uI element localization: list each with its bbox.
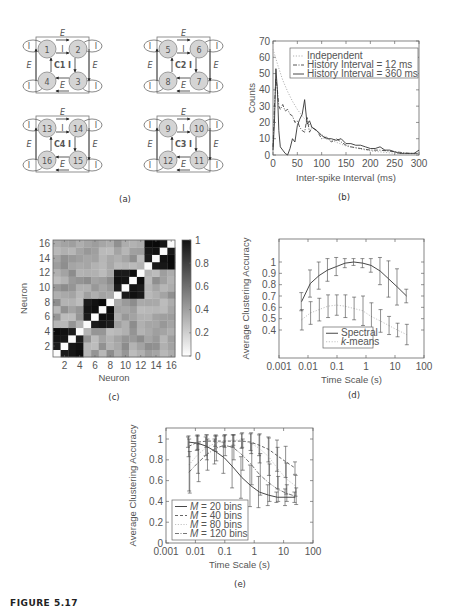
heatmap-cell — [129, 284, 137, 292]
heatmap-cell — [114, 291, 122, 299]
heatmap-cell — [84, 284, 92, 292]
heatmap-cell — [152, 299, 160, 307]
heatmap-cell — [129, 247, 137, 255]
heatmap-cell — [68, 320, 76, 328]
cluster-c3: IIII9101112EEEEIC3 I — [144, 108, 223, 172]
heatmap-cell — [114, 262, 122, 270]
heatmap-cell — [91, 313, 99, 321]
svg-text:1: 1 — [195, 235, 201, 246]
svg-text:2: 2 — [44, 341, 50, 352]
heatmap-cell — [122, 291, 130, 299]
self-loop-label: I — [95, 161, 97, 170]
svg-text:100: 100 — [416, 361, 433, 372]
heatmap-cell — [152, 269, 160, 277]
heatmap-cell — [106, 306, 114, 314]
svg-text:E: E — [92, 61, 98, 70]
svg-text:I: I — [61, 45, 63, 54]
heatmap-cell — [152, 277, 160, 285]
neuron-label: 10 — [194, 125, 204, 134]
heatmap-cell — [99, 247, 107, 255]
heatmap-cell — [68, 299, 76, 307]
heatmap-cell — [91, 269, 99, 277]
heatmap-cell — [106, 255, 114, 263]
heatmap-cell — [114, 313, 122, 321]
heatmap-cell — [160, 255, 168, 263]
neuron-label: 1 — [44, 46, 49, 55]
svg-text:0.1: 0.1 — [330, 361, 344, 372]
heatmap-cell — [152, 262, 160, 270]
heatmap-cell — [152, 306, 160, 314]
heatmap-cell — [68, 335, 76, 343]
heatmap-cell — [53, 262, 61, 270]
heatmap-cell — [145, 255, 153, 263]
heatmap-cell — [152, 247, 160, 255]
heatmap-cell — [84, 313, 92, 321]
svg-text:0.001: 0.001 — [266, 361, 291, 372]
heatmap-cell — [122, 269, 130, 277]
heatmap-cell — [106, 262, 114, 270]
neuron-label: 11 — [194, 157, 204, 166]
heatmap-cell — [167, 291, 175, 299]
heatmap-cell — [84, 247, 92, 255]
heatmap-cell — [122, 306, 130, 314]
heatmap-cell — [99, 240, 107, 248]
heatmap-cell — [137, 247, 145, 255]
svg-text:12: 12 — [39, 267, 51, 278]
svg-text:6: 6 — [92, 360, 98, 371]
heatmap-cell — [53, 335, 61, 343]
svg-text:60: 60 — [259, 52, 271, 63]
svg-text:6: 6 — [44, 311, 50, 322]
neuron-label: 13 — [42, 125, 52, 134]
panel-a-label: (a) — [119, 194, 131, 204]
heatmap-cell — [99, 284, 107, 292]
heatmap-cell — [84, 240, 92, 248]
heatmap-cell — [76, 299, 84, 307]
svg-text:4: 4 — [44, 326, 50, 337]
svg-text:E: E — [26, 61, 32, 70]
heatmap-cell — [145, 269, 153, 277]
heatmap-cell — [129, 269, 137, 277]
heatmap-cell — [129, 262, 137, 270]
heatmap-cell — [160, 328, 168, 336]
svg-text:E: E — [92, 140, 98, 149]
heatmap-cell — [114, 306, 122, 314]
heatmap-cell — [99, 350, 107, 358]
heatmap-cell — [91, 262, 99, 270]
heatmap-cell — [84, 262, 92, 270]
x-axis-label: Time Scale (s) — [209, 559, 270, 570]
heatmap-cell — [99, 328, 107, 336]
heatmap-cell — [106, 284, 114, 292]
heatmap-cell — [160, 306, 168, 314]
heatmap-cell — [106, 299, 114, 307]
heatmap-cell — [68, 342, 76, 350]
heatmap-cell — [152, 291, 160, 299]
heatmap-cell — [84, 328, 92, 336]
heatmap-cell — [91, 255, 99, 263]
heatmap-cell — [68, 306, 76, 314]
heatmap-cell — [76, 269, 84, 277]
heatmap-cell — [68, 291, 76, 299]
heatmap-cell — [84, 306, 92, 314]
x-axis-label: Neuron — [98, 372, 129, 383]
heatmap-cell — [160, 299, 168, 307]
heatmap-cell — [167, 284, 175, 292]
svg-text:E: E — [26, 140, 32, 149]
neuron-label: 12 — [163, 157, 173, 166]
heatmap-cell — [167, 342, 175, 350]
svg-text:E: E — [181, 160, 187, 169]
heatmap-cell — [137, 306, 145, 314]
heatmap-cell — [114, 277, 122, 285]
heatmap-cell — [99, 342, 107, 350]
neuron-label: 6 — [196, 46, 201, 55]
heatmap-cell — [145, 277, 153, 285]
heatmap-cell — [61, 335, 69, 343]
cluster-label: C2 I — [175, 61, 192, 70]
heatmap-cell — [106, 277, 114, 285]
svg-text:8: 8 — [107, 360, 113, 371]
heatmap-cell — [167, 255, 175, 263]
svg-text:0: 0 — [264, 150, 270, 161]
svg-text:1: 1 — [363, 361, 369, 372]
svg-text:E: E — [60, 81, 66, 90]
heatmap-cell — [129, 255, 137, 263]
y-axis-label: Average Clustering Accuracy — [127, 424, 138, 546]
